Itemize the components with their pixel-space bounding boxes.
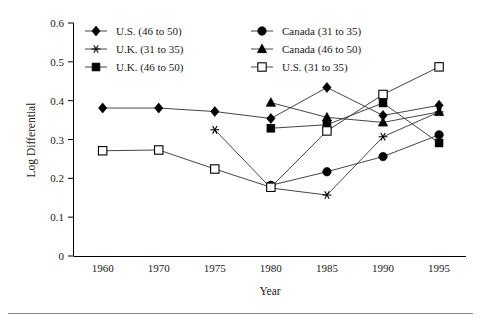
marker-square-open — [435, 63, 443, 71]
chart-background — [0, 0, 481, 320]
chart-figure: 00.10.20.30.40.50.6 19601970197519801985… — [0, 0, 481, 320]
x-tick-label: 1980 — [260, 262, 283, 274]
y-tick-label: 0.6 — [50, 17, 64, 29]
marker-square-filled — [92, 63, 100, 71]
marker-square-open — [323, 127, 331, 135]
x-axis-title: Year — [259, 285, 280, 297]
marker-square-filled — [435, 139, 443, 147]
x-tick-label: 1985 — [316, 262, 339, 274]
marker-square-open — [98, 147, 106, 155]
y-tick-label: 0.1 — [50, 211, 64, 223]
marker-circle-filled — [323, 168, 331, 176]
legend-label: U.S. (46 to 50) — [116, 25, 182, 38]
y-tick-label: 0 — [59, 250, 65, 262]
marker-square-filled — [379, 99, 387, 107]
legend-label: U.S. (31 to 35) — [282, 61, 348, 74]
y-tick-label: 0.3 — [50, 134, 64, 146]
legend-label: U.K. (46 to 50) — [116, 61, 184, 74]
marker-circle-filled — [258, 27, 266, 35]
marker-circle-filled — [379, 152, 387, 160]
marker-square-open — [258, 63, 266, 71]
legend-label: Canada (31 to 35) — [282, 25, 361, 38]
legend-label: Canada (46 to 50) — [282, 43, 361, 56]
x-tick-label: 1970 — [148, 262, 171, 274]
log-differential-line-chart: 00.10.20.30.40.50.6 19601970197519801985… — [0, 0, 481, 320]
x-tick-label: 1990 — [372, 262, 395, 274]
legend-label: U.K. (31 to 35) — [116, 43, 184, 56]
x-tick-label: 1975 — [204, 262, 227, 274]
y-tick-label: 0.2 — [50, 172, 64, 184]
y-tick-label: 0.5 — [50, 56, 64, 68]
x-tick-label: 1960 — [92, 262, 115, 274]
marker-square-open — [379, 90, 387, 98]
x-tick-label: 1995 — [428, 262, 451, 274]
marker-square-open — [267, 183, 275, 191]
marker-circle-filled — [435, 131, 443, 139]
y-axis-title: Log Differential — [25, 103, 38, 178]
marker-square-open — [155, 146, 163, 154]
marker-square-open — [211, 165, 219, 173]
marker-square-filled — [267, 124, 275, 132]
y-tick-label: 0.4 — [50, 95, 64, 107]
